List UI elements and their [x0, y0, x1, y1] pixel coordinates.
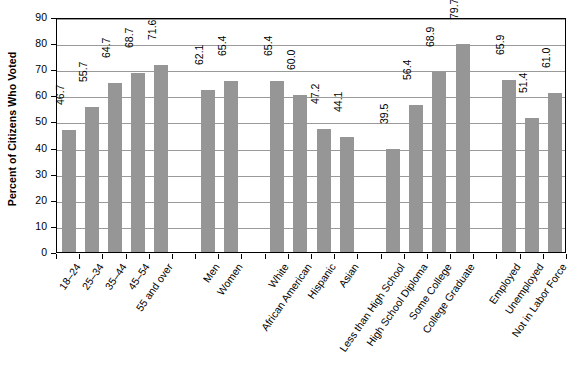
bar-value-label: 46.7 — [54, 93, 84, 105]
bar-slot: 60.0 — [289, 19, 312, 252]
x-tick-mark — [56, 254, 57, 259]
x-tick-mark — [265, 254, 266, 259]
y-tick-label: 0 — [41, 246, 47, 259]
bar[interactable] — [386, 149, 400, 252]
bar-slot: 61.0 — [544, 19, 567, 252]
bar-slot: 68.7 — [127, 19, 150, 252]
bar-value-label: 68.9 — [424, 35, 454, 47]
bar[interactable] — [154, 65, 168, 252]
y-tick-label: 30 — [35, 168, 47, 181]
bar-slot: 56.4 — [405, 19, 428, 252]
bar-value-label: 60.0 — [285, 58, 315, 70]
plot-area: 46.755.764.768.771.662.165.465.460.047.2… — [56, 18, 566, 253]
bar[interactable] — [131, 73, 145, 252]
x-axis-label-text: Men — [200, 261, 222, 285]
bar-value-label: 71.6 — [146, 28, 176, 40]
y-tick-label: 90 — [35, 11, 47, 24]
y-axis-title-text: Percent of Citizens Who Voted — [6, 52, 18, 206]
y-tick-label: 60 — [35, 89, 47, 102]
bar-value-label: 61.0 — [540, 56, 570, 68]
bar-slot: 71.6 — [150, 19, 173, 252]
bar-value-label: 44.1 — [332, 100, 362, 112]
y-axis-title: Percent of Citizens Who Voted — [0, 0, 24, 258]
y-tick-label: 70 — [35, 63, 47, 76]
y-tick-label: 10 — [35, 220, 47, 233]
y-tick-label: 50 — [35, 115, 47, 128]
bar-slot: 64.7 — [103, 19, 126, 252]
bar[interactable] — [85, 107, 99, 252]
bar[interactable] — [62, 130, 76, 252]
bar[interactable] — [293, 95, 307, 252]
bar-value-label: 79.7 — [448, 7, 478, 19]
y-tick-label: 80 — [35, 37, 47, 50]
bar[interactable] — [108, 83, 122, 252]
bar-slot: 65.4 — [219, 19, 242, 252]
bar-value-label: 55.7 — [77, 70, 107, 82]
x-tick-mark — [381, 254, 382, 259]
y-tick-label: 20 — [35, 194, 47, 207]
bar-slot: 47.2 — [312, 19, 335, 252]
bar[interactable] — [270, 81, 284, 252]
bar-value-label: 39.5 — [378, 112, 408, 124]
bar-value-label: 65.9 — [494, 43, 524, 55]
y-tick-label: 40 — [35, 142, 47, 155]
x-tick-mark — [195, 254, 196, 259]
bar-value-label: 51.4 — [517, 81, 547, 93]
bar-slot: 46.7 — [57, 19, 80, 252]
bar-chart: Percent of Citizens Who Voted 0102030405… — [0, 0, 574, 376]
bar[interactable] — [224, 81, 238, 252]
x-axis-label-text: 18–24 — [56, 261, 83, 292]
bar-value-label: 56.4 — [401, 68, 431, 80]
x-tick-mark — [496, 254, 497, 259]
bar-slot: 39.5 — [382, 19, 405, 252]
bar-value-label: 65.4 — [216, 44, 246, 56]
